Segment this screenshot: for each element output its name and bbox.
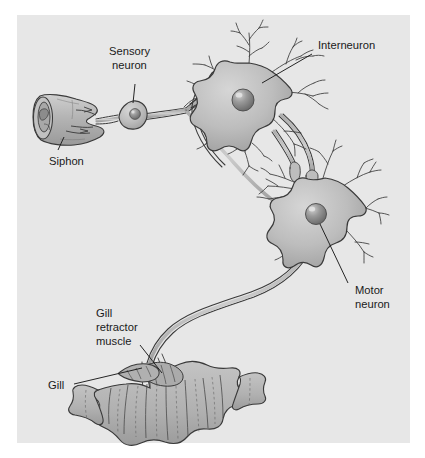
label-sensory-neuron-line2: neuron [112, 59, 147, 71]
label-gill-retractor-line3: muscle [96, 335, 131, 347]
label-siphon: Siphon [49, 155, 84, 167]
label-gill-retractor-line2: retractor [96, 321, 138, 333]
label-gill: Gill [48, 379, 64, 391]
label-interneuron: Interneuron [318, 39, 375, 51]
label-gill-retractor-line1: Gill [96, 307, 112, 319]
neural-circuit-diagram: Sensory neuron Interneuron Motor neuron … [0, 0, 425, 458]
figure-root: Sensory neuron Interneuron Motor neuron … [0, 0, 425, 458]
label-motor-neuron-line1: Motor [355, 284, 384, 296]
label-sensory-neuron-line1: Sensory [109, 45, 150, 57]
label-motor-neuron-line2: neuron [355, 298, 390, 310]
